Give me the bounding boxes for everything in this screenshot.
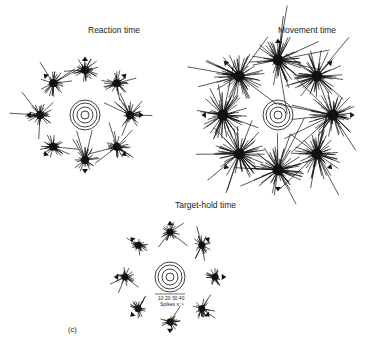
raster-diagram xyxy=(0,0,370,360)
panel-1 xyxy=(188,6,356,204)
panel-2 xyxy=(110,221,226,334)
panel-0 xyxy=(10,57,153,174)
